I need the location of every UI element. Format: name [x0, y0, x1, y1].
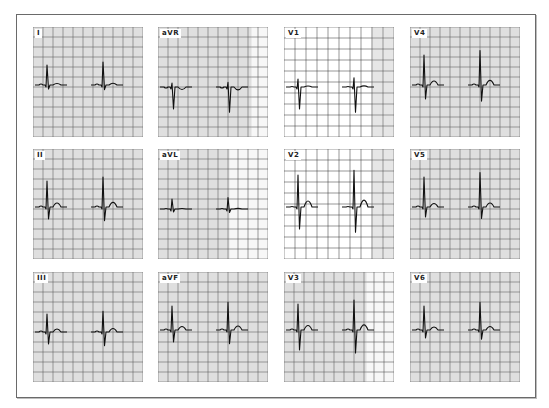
ecg-waveform	[410, 27, 520, 137]
lead-panel-V2: V2	[284, 149, 394, 259]
ecg-waveform	[284, 272, 394, 382]
lead-label: V5	[412, 151, 427, 160]
ecg-waveform	[33, 272, 143, 382]
lead-panel-aVF: aVF	[158, 272, 268, 382]
lead-label: I	[35, 29, 42, 38]
lead-panel-III: III	[33, 272, 143, 382]
lead-panel-aVL: aVL	[158, 149, 268, 259]
ecg-waveform	[33, 27, 143, 137]
lead-label: V1	[286, 29, 301, 38]
lead-label: aVL	[160, 151, 180, 160]
lead-panel-V6: V6	[410, 272, 520, 382]
ecg-waveform	[410, 272, 520, 382]
ecg-waveform	[410, 149, 520, 259]
lead-panel-aVR: aVR	[158, 27, 268, 137]
lead-panel-I: I	[33, 27, 143, 137]
ecg-waveform	[284, 27, 394, 137]
lead-label: V4	[412, 29, 427, 38]
lead-label: II	[35, 151, 45, 160]
ecg-waveform	[158, 27, 268, 137]
lead-panel-V3: V3	[284, 272, 394, 382]
lead-label: V2	[286, 151, 301, 160]
ecg-waveform	[158, 272, 268, 382]
lead-label: aVR	[160, 29, 181, 38]
lead-panel-II: II	[33, 149, 143, 259]
ecg-waveform	[284, 149, 394, 259]
lead-label: III	[35, 274, 48, 283]
lead-label: V3	[286, 274, 301, 283]
lead-panel-V5: V5	[410, 149, 520, 259]
lead-label: V6	[412, 274, 427, 283]
lead-panel-V1: V1	[284, 27, 394, 137]
ecg-waveform	[33, 149, 143, 259]
lead-panel-V4: V4	[410, 27, 520, 137]
lead-label: aVF	[160, 274, 180, 283]
ecg-waveform	[158, 149, 268, 259]
